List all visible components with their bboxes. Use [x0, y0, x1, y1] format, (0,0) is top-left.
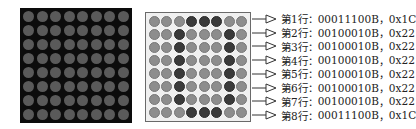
led-off [149, 94, 160, 105]
arrow-icon [252, 110, 278, 120]
led-cell [223, 15, 236, 28]
row-binary: 00100010B [318, 27, 379, 39]
led-cell [103, 107, 117, 121]
row-binary: 00100010B [318, 54, 379, 66]
led-cell [236, 67, 249, 80]
led-cell [63, 38, 77, 52]
led-off [91, 39, 102, 50]
led-off [211, 81, 222, 92]
led-cell [161, 41, 174, 54]
row-label-text: 第4行 [281, 53, 308, 68]
led-off [236, 42, 247, 53]
led-cell [63, 107, 77, 121]
led-off [211, 55, 222, 66]
row-comma: ， [379, 108, 389, 123]
led-off [77, 25, 88, 36]
led-off [50, 39, 61, 50]
led-cell [236, 41, 249, 54]
led-off [50, 67, 61, 78]
led-off [224, 16, 235, 27]
led-off [50, 11, 61, 22]
led-off [161, 16, 172, 27]
led-off [64, 95, 75, 106]
led-off [37, 81, 48, 92]
led-cell [173, 41, 186, 54]
led-cell [211, 54, 224, 67]
led-cell [22, 52, 36, 66]
led-cell [236, 54, 249, 67]
led-off [211, 42, 222, 53]
led-on [186, 107, 197, 118]
led-off [118, 67, 129, 78]
row-comma: ， [379, 11, 389, 26]
led-off [37, 109, 48, 120]
led-off [64, 81, 75, 92]
led-off [118, 109, 129, 120]
led-off [149, 68, 160, 79]
led-off [149, 107, 160, 118]
led-on [224, 81, 235, 92]
led-cell [198, 41, 211, 54]
led-off [211, 29, 222, 40]
led-cell [76, 66, 90, 80]
led-on [186, 16, 197, 27]
row-label-sep: ： [308, 94, 318, 109]
led-off [37, 25, 48, 36]
led-on [174, 42, 185, 53]
row-hex: 0x22 [389, 27, 415, 39]
led-cell [236, 28, 249, 41]
led-cell [49, 24, 63, 38]
row-label-text: 第7行 [281, 94, 308, 109]
led-on [224, 68, 235, 79]
led-cell [49, 66, 63, 80]
led-off [23, 25, 34, 36]
led-off [37, 39, 48, 50]
arrow-icon [252, 55, 278, 65]
led-off [50, 53, 61, 64]
led-off [118, 39, 129, 50]
led-cell [76, 52, 90, 66]
led-cell [211, 28, 224, 41]
led-cell [76, 79, 90, 93]
led-cell [173, 106, 186, 119]
led-cell [211, 80, 224, 93]
led-off [91, 67, 102, 78]
led-cell [76, 10, 90, 24]
led-off [118, 25, 129, 36]
row-label-sep: ： [308, 80, 318, 95]
led-off [149, 55, 160, 66]
led-cell [63, 66, 77, 80]
led-off [77, 39, 88, 50]
led-cell [148, 67, 161, 80]
led-off [161, 29, 172, 40]
led-cell [49, 38, 63, 52]
led-cell [223, 93, 236, 106]
led-cell [117, 107, 131, 121]
led-cell [49, 93, 63, 107]
row-comma: ， [379, 39, 389, 54]
led-cell [186, 41, 199, 54]
led-cell [211, 93, 224, 106]
led-off [91, 81, 102, 92]
row-label-sep: ： [308, 25, 318, 40]
led-cell [161, 93, 174, 106]
led-cell [148, 93, 161, 106]
led-cell [36, 79, 50, 93]
led-cell [103, 10, 117, 24]
led-cell [236, 106, 249, 119]
row-label: 第6行：00100010B，0x22 [252, 81, 412, 95]
led-on [224, 42, 235, 53]
led-off [91, 95, 102, 106]
row-binary: 00011100B [318, 13, 379, 25]
led-off [186, 42, 197, 53]
led-cell [22, 10, 36, 24]
dark-led-grid [22, 10, 130, 121]
row-code-labels: 第1行：00011100B，0x1C第2行：00100010B，0x22第3行：… [252, 12, 412, 122]
led-cell [90, 38, 104, 52]
led-off [77, 11, 88, 22]
row-binary: 00011100B [318, 109, 379, 121]
led-cell [36, 52, 50, 66]
row-label: 第1行：00011100B，0x1C [252, 12, 412, 26]
led-cell [148, 106, 161, 119]
led-cell [161, 54, 174, 67]
